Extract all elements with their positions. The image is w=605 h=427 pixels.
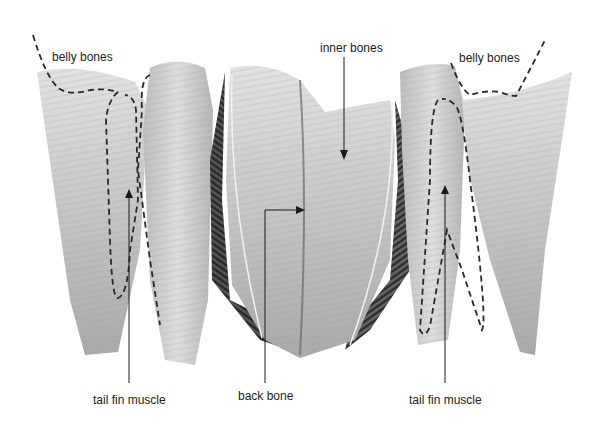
label-back-bone: back bone <box>238 389 293 403</box>
label-tail-fin-muscle-left: tail fin muscle <box>93 393 166 407</box>
right-fillet-pair <box>400 64 572 355</box>
label-tail-fin-muscle-right: tail fin muscle <box>409 393 482 407</box>
left-fillet-pair <box>37 62 213 366</box>
center-fillet <box>210 66 418 358</box>
label-belly-bones-left: belly bones <box>52 50 113 64</box>
fish-fillet-diagram: belly bones inner bones belly bones tail… <box>0 0 605 427</box>
label-inner-bones: inner bones <box>320 41 383 55</box>
label-belly-bones-right: belly bones <box>459 51 520 65</box>
